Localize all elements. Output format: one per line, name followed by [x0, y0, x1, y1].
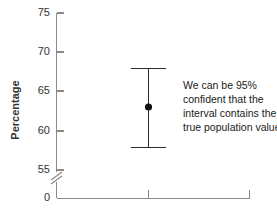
axis-break-slash-upper — [51, 172, 62, 180]
y-axis-title: Percentage — [9, 80, 21, 139]
y-tick-label-65: 65 — [38, 84, 50, 96]
y-tick-label-70: 70 — [38, 45, 50, 57]
point-estimate-marker — [145, 103, 152, 110]
chart-canvas: 75 70 65 60 55 0 Percentage We can be 95… — [0, 0, 277, 221]
confidence-interval-chart: 75 70 65 60 55 0 Percentage We can be 95… — [0, 0, 277, 221]
y-tick-label-origin: 0 — [44, 191, 50, 203]
y-tick-label-60: 60 — [38, 124, 50, 136]
y-tick-label-55: 55 — [38, 163, 50, 175]
annotation-line-1: We can be 95% — [183, 79, 257, 91]
y-tick-label-75: 75 — [38, 6, 50, 18]
annotation-line-3: interval contains the — [183, 107, 277, 119]
annotation-line-2: confident that the — [183, 93, 264, 105]
annotation-line-4: true population value. — [183, 121, 277, 133]
